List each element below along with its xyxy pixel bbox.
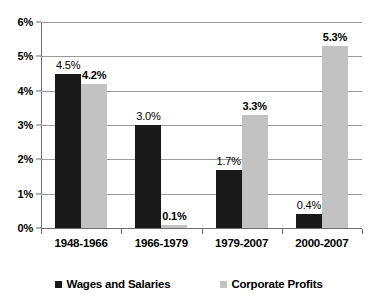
legend-entry-corporate-profits[interactable]: Corporate Profits — [220, 279, 322, 291]
x-axis-category-label-3: 2000-2007 — [277, 238, 367, 250]
x-tick-mark-3 — [282, 229, 283, 234]
y-tick-label-4%: 4% — [3, 85, 33, 96]
bar-label-series-1-category-1: 0.1% — [154, 211, 194, 222]
legend-swatch-icon-series-1 — [220, 281, 227, 288]
chart-legend: Wages and Salaries Corporate Profits — [0, 279, 378, 291]
y-tick-label-6%: 6% — [3, 17, 33, 28]
legend-label-series-1: Corporate Profits — [231, 279, 322, 291]
bar-series-1-category-2[interactable] — [242, 115, 268, 228]
x-tick-mark-2 — [202, 229, 203, 234]
y-tick-label-3%: 3% — [3, 120, 33, 131]
bar-series-1-category-3[interactable] — [322, 46, 348, 228]
bar-label-series-1-category-3: 5.3% — [315, 32, 355, 43]
bar-series-0-category-3[interactable] — [296, 214, 322, 228]
y-tick-label-2%: 2% — [3, 154, 33, 165]
y-tick-label-1%: 1% — [3, 188, 33, 199]
bar-series-0-category-0[interactable] — [55, 74, 81, 229]
x-axis-category-label-1: 1966-1979 — [116, 238, 206, 250]
bar-chart: 0%1%2%3%4%5%6% 4.5%4.2%3.0%0.1%1.7%3.3%0… — [0, 0, 378, 297]
x-tick-mark-0 — [41, 229, 42, 234]
y-tick-label-5%: 5% — [3, 51, 33, 62]
bar-series-0-category-2[interactable] — [216, 170, 242, 228]
plot-area: 4.5%4.2%3.0%0.1%1.7%3.3%0.4%5.3% — [41, 22, 362, 228]
bar-series-1-category-1[interactable] — [161, 225, 187, 228]
y-tick-label-0%: 0% — [3, 223, 33, 234]
bar-label-series-0-category-1: 3.0% — [128, 111, 168, 122]
gridline-5% — [41, 56, 362, 57]
bar-series-1-category-0[interactable] — [81, 84, 107, 228]
x-tick-mark-1 — [121, 229, 122, 234]
x-tick-mark-end — [362, 229, 363, 234]
x-axis-category-label-2: 1979-2007 — [197, 238, 287, 250]
legend-entry-wages-and-salaries[interactable]: Wages and Salaries — [55, 279, 170, 291]
legend-label-series-0: Wages and Salaries — [66, 279, 170, 291]
x-axis-category-label-0: 1948-1966 — [36, 238, 126, 250]
gridline-6% — [41, 22, 362, 23]
bar-label-series-1-category-0: 4.2% — [74, 70, 114, 81]
legend-swatch-icon-series-0 — [55, 281, 62, 288]
bar-label-series-1-category-2: 3.3% — [235, 101, 275, 112]
